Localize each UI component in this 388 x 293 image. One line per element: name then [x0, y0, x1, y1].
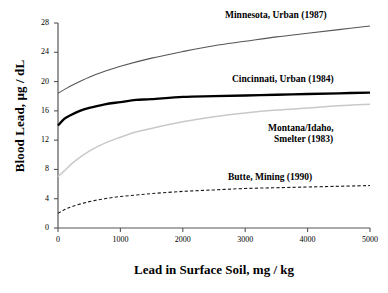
chart-figure: Blood Lead, µg / dL Lead in Surface Soil…: [0, 0, 388, 293]
y-tick-label: 4: [29, 194, 49, 203]
series-annotation-label: Butte, Mining (1990): [228, 172, 312, 183]
y-tick-label: 16: [29, 106, 49, 115]
y-tick-label: 0: [29, 223, 49, 232]
x-tick-label: 3000: [225, 235, 265, 244]
series-annotation-label: Montana/Idaho,: [268, 123, 334, 134]
y-tick-label: 24: [29, 47, 49, 56]
series-line: [58, 186, 370, 214]
series-annotation-label: Minnesota, Urban (1987): [225, 10, 327, 21]
x-tick-label: 2000: [163, 235, 203, 244]
y-axis-title-wrapper: Blood Lead, µg / dL: [0, 0, 28, 240]
y-tick-label: 28: [29, 18, 49, 27]
x-tick-label: 1000: [100, 235, 140, 244]
series-annotation-label: Cincinnati, Urban (1984): [232, 74, 334, 85]
y-tick-label: 8: [29, 164, 49, 173]
y-axis-title: Blood Lead, µg / dL: [12, 16, 28, 216]
plot-canvas: [0, 0, 388, 293]
series-group: [58, 26, 370, 213]
y-tick-label: 20: [29, 77, 49, 86]
x-tick-label: 5000: [350, 235, 388, 244]
series-line: [58, 93, 370, 126]
series-annotation-label: Smelter (1983): [274, 134, 333, 145]
x-axis-title: Lead in Surface Soil, mg / kg: [58, 262, 370, 278]
x-tick-label: 0: [38, 235, 78, 244]
x-tick-label: 4000: [288, 235, 328, 244]
y-tick-label: 12: [29, 135, 49, 144]
